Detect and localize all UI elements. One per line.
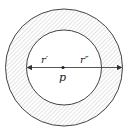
label-center: p — [59, 71, 66, 84]
hatched-ring — [0, 0, 129, 129]
center-point — [61, 66, 64, 69]
label-outer-radius: r″ — [80, 54, 89, 65]
annulus-diagram: r′ r″ p — [0, 0, 129, 129]
label-inner-radius: r′ — [41, 54, 49, 65]
